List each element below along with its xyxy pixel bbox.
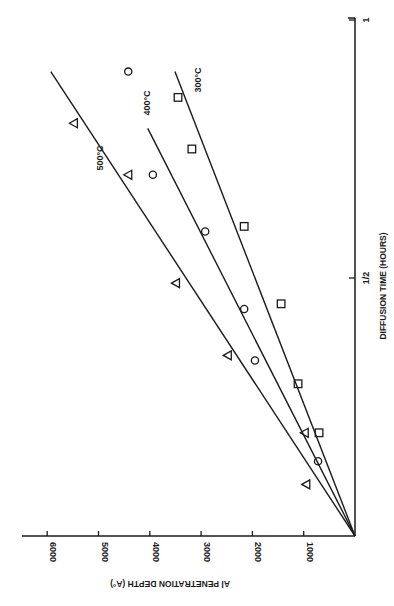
depth-tick-label: 2000: [253, 542, 263, 562]
depth-tick-label: 6000: [48, 542, 58, 562]
data-markers: [69, 68, 323, 489]
series-label-500: 500°C: [95, 145, 105, 171]
time-tick-label: 1/2: [361, 272, 371, 285]
time-tick-label: 1: [361, 17, 371, 22]
series-label-400: 400°C: [142, 90, 152, 116]
triangle-marker: [171, 279, 179, 288]
depth-tick-label: 4000: [151, 542, 161, 562]
triangle-marker: [124, 170, 132, 179]
diffusion-chart: 1/21 100020003000400050006000 DIFFUSION …: [0, 0, 394, 606]
depth-axis-title: Al PENETRATION DEPTH (A°): [110, 579, 230, 589]
fit-line-400: [148, 128, 355, 536]
circle-marker: [202, 228, 209, 235]
time-axis-ticks: 1/21: [349, 17, 371, 284]
axes: [22, 18, 355, 536]
square-marker: [174, 94, 182, 102]
circle-marker: [125, 68, 132, 75]
series-label-300: 300°C: [193, 67, 203, 93]
depth-tick-label: 1000: [305, 542, 315, 562]
fit-line-500: [51, 72, 355, 536]
triangle-marker: [69, 119, 77, 128]
circle-marker: [149, 171, 156, 178]
depth-tick-label: 5000: [100, 542, 110, 562]
fit-line-300: [175, 72, 355, 536]
time-axis-title: DIFFUSION TIME (HOURS): [378, 232, 388, 339]
square-marker: [240, 223, 248, 231]
depth-tick-label: 3000: [202, 542, 212, 562]
circle-marker: [251, 357, 258, 364]
square-marker: [277, 300, 285, 308]
fit-lines: [51, 72, 355, 536]
triangle-marker: [223, 351, 231, 360]
circle-marker: [241, 305, 248, 312]
square-marker: [188, 145, 196, 153]
triangle-marker: [302, 480, 310, 489]
